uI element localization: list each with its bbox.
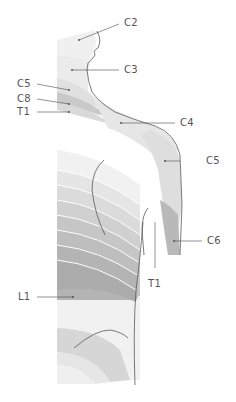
arm-inner-outline xyxy=(142,208,148,255)
label-c5-right: C5 xyxy=(206,156,220,166)
label-c8: C8 xyxy=(17,94,31,104)
label-l1: L1 xyxy=(18,292,31,302)
label-c5-left: C5 xyxy=(17,79,31,89)
label-c3: C3 xyxy=(124,65,138,75)
label-c2: C2 xyxy=(124,18,138,28)
label-t1-bottom: T1 xyxy=(148,279,161,289)
label-c6: C6 xyxy=(207,236,221,246)
dermatome-diagram: C2 C3 C5 C8 T1 C4 C5 C6 T1 L1 xyxy=(0,0,236,402)
leader-c2 xyxy=(79,24,119,40)
label-t1-left: T1 xyxy=(17,107,30,117)
body-illustration xyxy=(0,0,236,402)
label-c4: C4 xyxy=(180,118,194,128)
